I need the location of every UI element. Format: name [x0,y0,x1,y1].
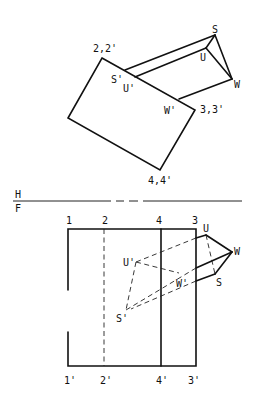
prism-end-sw [215,35,232,79]
top-view: 2,2' 3,3' 4,4' S U W S' U' W' [68,24,241,186]
prism-edge-w [179,79,232,99]
label-w-prime: W' [164,105,176,116]
label-w: W [234,79,241,90]
label-front-u-prime: U' [123,257,135,268]
front-view: 1 2 4 3 1' 2' 4' 3' U W S U' W' S' [64,215,241,386]
plane-front-outline [68,229,196,366]
label-edge-1p: 1' [64,375,76,386]
label-front-u: U [203,223,209,234]
label-4-4p: 4,4' [148,175,172,186]
label-edge-2: 2 [102,215,108,226]
label-edge-1: 1 [66,215,72,226]
prism-front-u-edge [196,235,206,238]
label-edge-3: 3 [192,215,198,226]
prism-end-uw [206,48,232,79]
label-edge-3p: 3' [188,375,200,386]
label-2-2p: 2,2' [93,43,117,54]
projection-drawing: 2,2' 3,3' 4,4' S U W S' U' W' H F [0,0,253,402]
pierce-line-u-s [126,262,136,310]
label-front-s: S [216,277,222,288]
label-front-s-prime: S' [116,313,128,324]
pierce-line-u-w [136,262,179,273]
fold-label-f: F [15,203,21,214]
label-u: U [200,52,206,63]
label-s: S [212,24,218,35]
prism-front-s-edge [196,274,215,281]
label-3-3p: 3,3' [200,104,224,115]
label-front-w-prime: W' [176,278,188,289]
label-s-prime: S' [111,74,123,85]
fold-line: H F [13,189,242,214]
label-front-w: W [234,246,241,257]
label-edge-4: 4 [156,215,162,226]
hidden-edge-u [136,238,196,262]
fold-label-h: H [15,189,21,200]
label-u-prime: U' [123,83,135,94]
label-edge-4p: 4' [156,375,168,386]
prism-front-u-w [206,235,232,252]
label-edge-2p: 2' [100,375,112,386]
